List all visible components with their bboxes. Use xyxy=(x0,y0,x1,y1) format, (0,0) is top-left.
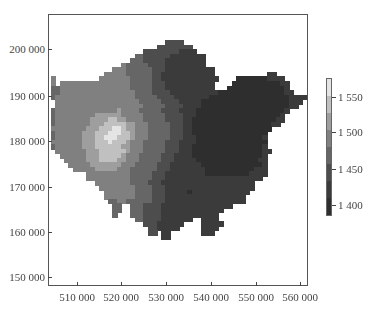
y-tick-label: 160 000 xyxy=(0,226,45,238)
y-tick-label: 200 000 xyxy=(0,43,45,55)
y-tick-200000 xyxy=(48,49,52,50)
x-tick-label: 550 000 xyxy=(231,291,281,303)
x-tick-label: 520 000 xyxy=(96,291,146,303)
y-tick-label: 170 000 xyxy=(0,181,45,193)
x-tick-label: 560 000 xyxy=(275,291,325,303)
colorbar-tick-label: 1 500 xyxy=(338,126,363,138)
x-tick-label: 540 000 xyxy=(186,291,236,303)
y-tick-190000 xyxy=(48,96,52,97)
x-tick-520000 xyxy=(121,282,122,286)
y-tick-150000 xyxy=(48,277,52,278)
x-tick-530000 xyxy=(166,282,167,286)
colorbar-tick-1500 xyxy=(332,132,336,133)
colorbar-tick-label: 1 550 xyxy=(338,91,363,103)
colorbar-tick-1550 xyxy=(332,97,336,98)
heatmap-raster xyxy=(49,15,307,285)
y-tick-170000 xyxy=(48,187,52,188)
colorbar xyxy=(326,78,332,216)
x-tick-560000 xyxy=(300,282,301,286)
y-tick-label: 150 000 xyxy=(0,271,45,283)
colorbar-tick-1400 xyxy=(332,205,336,206)
y-tick-180000 xyxy=(48,141,52,142)
colorbar-tick-label: 1 450 xyxy=(338,163,363,175)
x-tick-label: 510 000 xyxy=(52,291,102,303)
x-tick-label: 530 000 xyxy=(141,291,191,303)
x-tick-510000 xyxy=(77,282,78,286)
plot-area xyxy=(48,14,308,286)
x-tick-540000 xyxy=(211,282,212,286)
colorbar-tick-label: 1 400 xyxy=(338,199,363,211)
y-tick-label: 190 000 xyxy=(0,90,45,102)
y-tick-160000 xyxy=(48,232,52,233)
x-tick-550000 xyxy=(256,282,257,286)
colorbar-tick-1450 xyxy=(332,169,336,170)
y-tick-label: 180 000 xyxy=(0,135,45,147)
